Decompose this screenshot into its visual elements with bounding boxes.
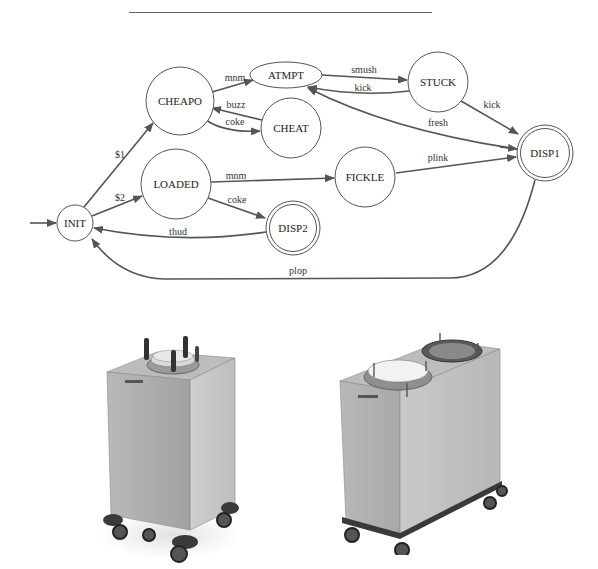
state-label: CHEAT: [273, 122, 309, 134]
edge-atmpt-stuck: [322, 75, 407, 80]
state-label: CHEAPO: [158, 95, 202, 107]
edge-fickle-disp1: [396, 157, 516, 173]
state-stuck[interactable]: STUCK: [408, 52, 468, 112]
double-dispenser-photo: [330, 325, 510, 555]
state-label: ATMPT: [268, 69, 304, 81]
state-label: DISP1: [530, 147, 559, 159]
state-disp2[interactable]: DISP2: [266, 201, 320, 255]
state-cheat[interactable]: CHEAT: [261, 98, 321, 158]
edge-label: mnm: [225, 72, 246, 83]
state-init[interactable]: INIT: [57, 205, 93, 241]
edge-label: kick: [483, 99, 500, 110]
state-loaded[interactable]: LOADED: [141, 149, 211, 219]
edge-label: $2: [115, 192, 125, 203]
edge-fresh-arrowhead-disp1: [500, 147, 517, 149]
edge-label: kick: [354, 82, 371, 93]
edge-label: coke: [228, 194, 247, 205]
state-fickle[interactable]: FICKLE: [335, 147, 395, 207]
edge-label: mnm: [226, 170, 247, 181]
single-dispenser-photo: [85, 320, 255, 565]
edge-label: $1: [115, 149, 125, 160]
state-diagram: $1 $2 mnm buzz coke smush kick kick fres…: [0, 0, 598, 300]
state-label: DISP2: [278, 222, 307, 234]
nodes: INIT CHEAPO LOADED ATMPT CHEAT STUCK FIC…: [57, 52, 573, 255]
state-cheapo[interactable]: CHEAPO: [146, 67, 214, 135]
state-disp1[interactable]: DISP1: [517, 125, 573, 181]
state-label: LOADED: [153, 178, 198, 190]
state-label: FICKLE: [346, 171, 385, 183]
edge-label: smush: [351, 64, 377, 75]
state-label: STUCK: [420, 76, 456, 88]
state-label: INIT: [64, 217, 86, 229]
edge-label: thud: [169, 226, 187, 237]
edge-label: coke: [226, 116, 245, 127]
edge-label: plop: [289, 265, 307, 276]
edge-label: buzz: [227, 99, 246, 110]
state-atmpt[interactable]: ATMPT: [250, 62, 322, 88]
edge-label: plink: [428, 152, 449, 163]
edge-label: fresh: [428, 117, 448, 128]
